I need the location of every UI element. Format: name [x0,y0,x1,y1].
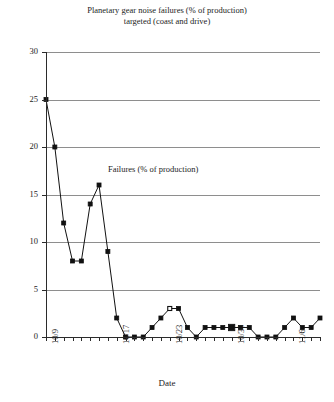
y-tick-label-20: 20 [8,141,38,151]
chart-container: Planetary gear noise failures (% of prod… [0,0,334,402]
data-point-marker [168,307,172,311]
x-tick-label-10-9: 10/9 [50,329,60,344]
data-point-marker [212,326,216,330]
data-point-marker [53,145,57,149]
data-point-marker [115,316,119,320]
data-point-marker [71,259,75,263]
x-tick-mark-17 [196,337,197,341]
y-tick-label-25: 25 [8,94,38,104]
x-tick-mark-30 [311,337,312,341]
y-tick-label-30: 30 [8,46,38,56]
x-tick-label-11-6: 11/6 [297,329,307,344]
y-tick-label-5: 5 [8,284,38,294]
x-tick-mark-28 [293,337,294,341]
series-line [46,100,320,338]
data-point-marker [106,250,110,254]
series-annotation-label: Failures (% of production) [108,164,198,174]
data-point-marker [203,326,207,330]
data-point-marker [309,326,313,330]
y-tick-label-15: 15 [8,189,38,199]
y-tick-label-10: 10 [8,236,38,246]
data-point-marker [150,326,154,330]
y-tick-mark-5 [42,290,46,291]
x-tick-mark-23 [249,337,250,341]
x-tick-mark-27 [285,337,286,341]
x-tick-mark-19 [214,337,215,341]
x-tick-mark-16 [187,337,188,341]
data-point-marker [318,316,322,320]
x-tick-label-10-30: 10/30 [236,325,246,344]
x-tick-mark-31 [320,337,321,341]
data-point-marker [283,326,287,330]
data-point-marker [88,202,92,206]
x-tick-mark-2 [64,337,65,341]
x-tick-mark-8 [117,337,118,341]
x-tick-mark-14 [170,337,171,341]
y-tick-mark-30 [42,52,46,53]
x-tick-mark-24 [258,337,259,341]
x-tick-label-10-23: 10/23 [174,325,184,344]
x-tick-label-10-17: 10/17 [121,325,131,344]
x-tick-mark-26 [276,337,277,341]
y-tick-mark-25 [42,100,46,101]
chart-title: Planetary gear noise failures (% of prod… [0,5,334,27]
x-tick-mark-25 [267,337,268,341]
chart-title-line-2: targeted (coast and drive) [0,16,334,27]
x-tick-mark-7 [108,337,109,341]
data-point-marker [291,316,295,320]
data-point-marker [247,326,251,330]
data-point-marker [228,324,234,330]
data-point-marker [159,316,163,320]
data-point-marker [185,326,189,330]
y-tick-mark-10 [42,242,46,243]
x-tick-mark-10 [134,337,135,341]
x-tick-mark-21 [232,337,233,341]
x-tick-mark-0 [46,337,47,341]
x-tick-mark-13 [161,337,162,341]
data-point-marker [177,307,181,311]
x-tick-mark-12 [152,337,153,341]
series-plot [46,52,320,337]
x-tick-mark-5 [90,337,91,341]
x-tick-mark-3 [73,337,74,341]
data-point-marker [62,221,66,225]
x-tick-mark-18 [205,337,206,341]
x-tick-mark-6 [99,337,100,341]
data-point-marker [221,326,225,330]
data-point-marker [97,183,101,187]
x-tick-mark-4 [81,337,82,341]
x-tick-mark-20 [223,337,224,341]
y-tick-label-0: 0 [8,331,38,341]
x-axis-title: Date [0,378,334,388]
plot-area [46,52,320,337]
y-axis-line [46,52,47,337]
y-tick-mark-20 [42,147,46,148]
data-point-marker [79,259,83,263]
chart-title-line-1: Planetary gear noise failures (% of prod… [0,5,334,16]
y-tick-mark-15 [42,195,46,196]
x-tick-mark-11 [143,337,144,341]
